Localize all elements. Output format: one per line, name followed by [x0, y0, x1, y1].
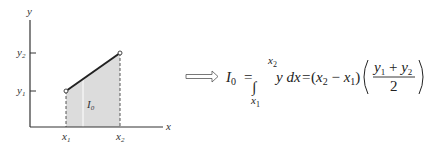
formula-eq-2: = — [302, 69, 310, 85]
y-axis-label: y — [26, 5, 32, 17]
formula: I0 = ∫ x2 x1 y dx = (x2 − x1) y1 + y2 2 — [225, 54, 423, 109]
y2-label: y2 — [16, 46, 26, 60]
integral-lower-limit: x1 — [250, 94, 260, 109]
difference-term: (x2 − x1) — [311, 69, 360, 87]
area-under-line — [66, 53, 120, 127]
x1-label: x1 — [61, 130, 70, 144]
integral-upper-limit: x2 — [267, 54, 277, 69]
x2-label: x2 — [115, 130, 125, 144]
x-axis-label: x — [165, 120, 171, 132]
integrand: y dx — [274, 69, 301, 85]
fraction-denominator: 2 — [390, 78, 398, 94]
point-2 — [118, 51, 122, 55]
y1-label: y1 — [16, 84, 25, 98]
implies-arrow-icon — [186, 71, 218, 82]
fraction-numerator: y1 + y2 — [372, 59, 412, 77]
left-big-paren — [364, 60, 368, 94]
trapezoid-integral-diagram: y x y2 y1 x1 x2 I0 I0 = ∫ x2 x1 y dx = (… — [0, 0, 442, 147]
right-big-paren — [419, 60, 423, 94]
point-1 — [64, 89, 68, 93]
formula-lhs: I0 — [225, 69, 236, 87]
